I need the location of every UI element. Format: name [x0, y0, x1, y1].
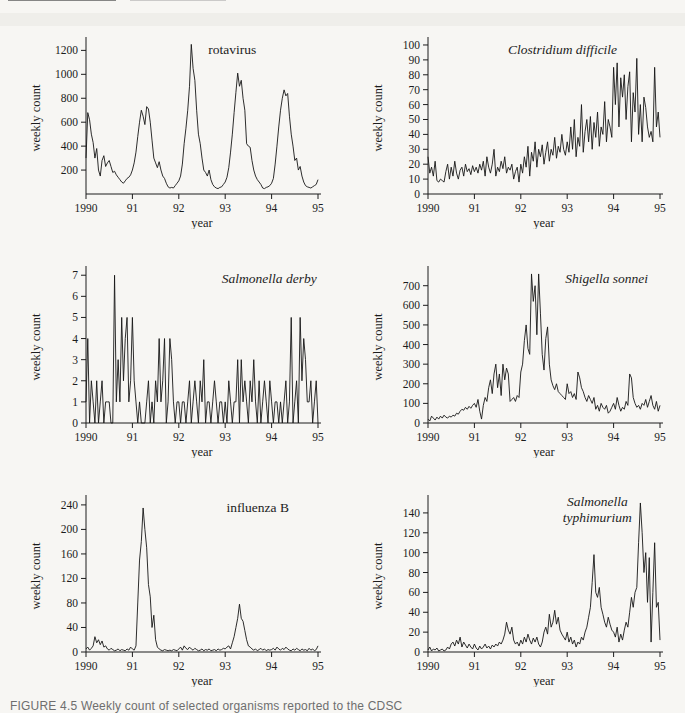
x-tick-label: 1990 — [75, 431, 98, 443]
x-tick-label: 94 — [266, 431, 278, 443]
x-tick-label: 95 — [654, 431, 666, 443]
x-tick-label: 94 — [266, 202, 278, 214]
y-tick-label: 600 — [403, 299, 421, 311]
x-tick-label: 95 — [654, 202, 666, 214]
chart-panel-clostridium-difficile: 010203040506070809010019909192939495week… — [342, 0, 684, 229]
series-line — [86, 44, 318, 188]
x-tick-label: 92 — [173, 431, 185, 443]
y-tick-label: 100 — [403, 397, 421, 409]
x-axis-title: year — [191, 445, 213, 458]
x-tick-label: 91 — [469, 202, 481, 214]
y-tick-label: 4 — [72, 333, 78, 345]
y-axis-title: weekly count — [371, 84, 385, 152]
chart-svg: 0123456719909192939495weekly countyearSa… — [0, 229, 342, 458]
y-tick-label: 0 — [72, 417, 78, 429]
y-tick-label: 60 — [409, 586, 421, 598]
x-tick-label: 91 — [127, 202, 139, 214]
x-axis-title: year — [191, 216, 213, 229]
x-tick-label: 92 — [173, 660, 185, 672]
x-tick-label: 94 — [266, 660, 278, 672]
series-line — [428, 58, 660, 182]
chart-panel-shigella-sonnei: 010020030040050060070019909192939495week… — [342, 229, 684, 458]
x-tick-label: 93 — [219, 660, 231, 672]
x-tick-label: 1990 — [417, 202, 440, 214]
y-tick-label: 10 — [409, 173, 421, 185]
y-tick-label: 20 — [409, 158, 421, 170]
x-axis-title: year — [533, 445, 555, 458]
y-tick-label: 1000 — [55, 68, 78, 80]
x-tick-label: 1990 — [75, 202, 98, 214]
y-axis-title: weekly count — [29, 542, 43, 610]
x-tick-label: 93 — [219, 431, 231, 443]
x-axis-title: year — [533, 674, 555, 687]
y-tick-label: 5 — [72, 311, 78, 323]
y-tick-label: 40 — [409, 128, 421, 140]
chart-svg: 010020030040050060070019909192939495week… — [342, 229, 684, 458]
chart-title: typhimurium — [563, 510, 632, 525]
x-tick-label: 94 — [608, 660, 620, 672]
y-tick-label: 160 — [61, 548, 79, 560]
y-tick-label: 40 — [409, 606, 421, 618]
chart-svg: 02040608010012014019909192939495weekly c… — [342, 458, 684, 687]
x-tick-label: 95 — [312, 431, 324, 443]
y-tick-label: 1200 — [55, 44, 78, 56]
chart-panel-influenza-b: 0408012016020024019909192939495weekly co… — [0, 458, 342, 687]
chart-svg: 010203040506070809010019909192939495week… — [342, 0, 684, 229]
y-axis-title: weekly count — [371, 313, 385, 381]
y-tick-label: 90 — [409, 54, 421, 66]
x-tick-label: 93 — [561, 202, 573, 214]
y-tick-label: 0 — [72, 646, 78, 658]
y-tick-label: 80 — [409, 69, 421, 81]
y-tick-label: 140 — [403, 507, 421, 519]
y-tick-label: 1 — [72, 396, 78, 408]
chart-title: rotavirus — [208, 42, 256, 57]
y-tick-label: 400 — [61, 140, 79, 152]
x-tick-label: 91 — [469, 660, 481, 672]
figure-grid: 2004006008001000120019909192939495weekly… — [0, 0, 685, 687]
x-tick-label: 92 — [515, 660, 527, 672]
y-tick-label: 200 — [403, 378, 421, 390]
y-axis-title: weekly count — [29, 313, 43, 381]
x-tick-label: 91 — [127, 431, 139, 443]
chart-svg: 0408012016020024019909192939495weekly co… — [0, 458, 342, 687]
y-tick-label: 800 — [61, 92, 79, 104]
y-tick-label: 200 — [61, 523, 79, 535]
x-tick-label: 1990 — [417, 431, 440, 443]
x-tick-label: 93 — [561, 431, 573, 443]
x-tick-label: 1990 — [417, 660, 440, 672]
y-tick-label: 0 — [414, 188, 420, 200]
x-tick-label: 91 — [127, 660, 139, 672]
chart-svg: 2004006008001000120019909192939495weekly… — [0, 0, 342, 229]
y-tick-label: 6 — [72, 290, 78, 302]
x-tick-label: 1990 — [75, 660, 98, 672]
x-tick-label: 95 — [654, 660, 666, 672]
x-axis-title: year — [533, 216, 555, 229]
y-tick-label: 30 — [409, 143, 421, 155]
y-tick-label: 700 — [403, 280, 421, 292]
y-tick-label: 2 — [72, 375, 78, 387]
x-tick-label: 94 — [608, 202, 620, 214]
y-tick-label: 7 — [72, 269, 78, 281]
chart-panel-rotavirus: 2004006008001000120019909192939495weekly… — [0, 0, 342, 229]
x-tick-label: 93 — [219, 202, 231, 214]
series-line — [86, 275, 318, 423]
x-tick-label: 95 — [312, 202, 324, 214]
x-tick-label: 95 — [312, 660, 324, 672]
y-tick-label: 200 — [61, 164, 79, 176]
figure-caption: FIGURE 4.5 Weekly count of selected orga… — [10, 699, 402, 713]
y-tick-label: 20 — [409, 626, 421, 638]
y-tick-label: 120 — [403, 527, 421, 539]
y-tick-label: 3 — [72, 354, 78, 366]
series-line — [86, 508, 318, 651]
y-tick-label: 40 — [67, 621, 79, 633]
y-tick-label: 400 — [403, 339, 421, 351]
y-tick-label: 0 — [414, 646, 420, 658]
y-tick-label: 50 — [409, 113, 421, 125]
y-tick-label: 70 — [409, 84, 421, 96]
x-tick-label: 92 — [173, 202, 185, 214]
chart-panel-salmonella-derby: 0123456719909192939495weekly countyearSa… — [0, 229, 342, 458]
y-tick-label: 300 — [403, 358, 421, 370]
y-axis-title: weekly count — [29, 84, 43, 152]
x-tick-label: 92 — [515, 202, 527, 214]
chart-title: Salmonella — [567, 494, 628, 509]
